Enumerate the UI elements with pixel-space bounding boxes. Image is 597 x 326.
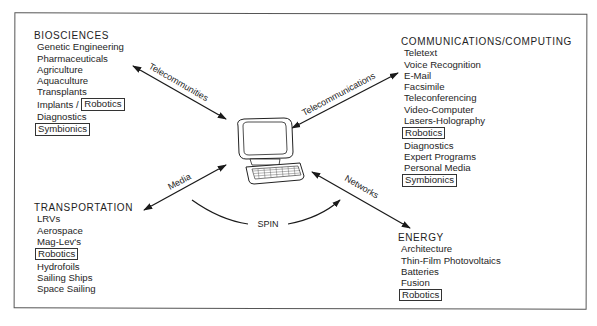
connector-label-media: Media (166, 171, 192, 191)
arrow-telecommunications: Telecommunications (292, 70, 398, 128)
spin-label: SPIN (257, 219, 278, 229)
connector-label-telecommunities: Telecommunities (147, 61, 210, 103)
arrow-media: Media (144, 165, 226, 210)
arrow-telecommunities: Telecommunities (133, 61, 226, 119)
arrow-networks: Networks (312, 172, 410, 228)
computer-terminal-icon (238, 118, 304, 184)
spin-cycle-arrow: SPIN (192, 200, 340, 229)
connector-label-networks: Networks (343, 173, 381, 201)
connector-layer: Telecommunities Telecommunications Media… (0, 0, 597, 326)
connector-label-telecommunications: Telecommunications (300, 70, 377, 117)
